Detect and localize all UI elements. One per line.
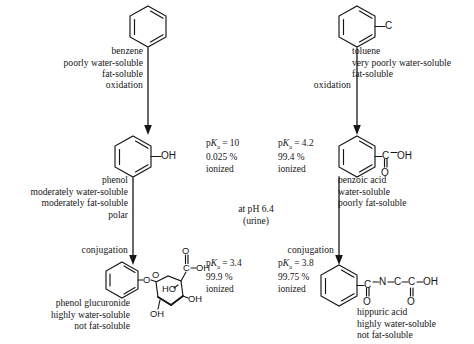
hippuric-c2-label: C: [394, 276, 401, 287]
ph-note-line1: at pH 6.4: [196, 203, 316, 215]
phenol-water-solubility: moderately water-soluble: [0, 186, 128, 198]
benzoic-c-label: C: [382, 150, 389, 161]
arrow-conjugation-left: [129, 178, 137, 265]
phenol-glucuronide-label-block: phenol glucuronide highly water-soluble …: [0, 297, 130, 332]
diagram-canvas: OH O O C O OH HO OH OH C C OH O C O N C …: [0, 0, 474, 344]
glucuronide-carboxyl-c-label: C: [183, 262, 190, 273]
pka-block-hippuric-acid: pKa = 3.8 99.75 % ionized: [278, 258, 314, 296]
benzene-ring-graphic: [130, 6, 166, 47]
oxidation-label-right: oxidation: [258, 79, 351, 91]
benzoic-acid-fat-solubility: poorly fat-soluble: [338, 197, 406, 209]
phenol-polarity: polar: [0, 209, 128, 221]
hippuric-c3-label: C: [408, 276, 415, 287]
glucuronide-o-link-label: O: [143, 274, 150, 285]
glucuronide-oh-right-label: OH: [188, 293, 202, 304]
toluene-methyl-c-label: C: [385, 20, 392, 31]
pka-glucuronide-value: pKa = 3.4: [206, 258, 242, 272]
conjugation-label-left: conjugation: [40, 244, 128, 256]
glucuronide-ho-label: HO: [162, 283, 176, 294]
conjugation-label-right: conjugation: [246, 244, 334, 256]
arrow-oxidation-left: [144, 48, 152, 135]
glucuronide-name: phenol glucuronide: [0, 297, 130, 309]
hippuric-acid-name: hippuric acid: [357, 306, 436, 318]
benzene-label-block: benzene poorly water-soluble fat-soluble: [0, 45, 143, 80]
phenol-label-block: phenol moderately water-soluble moderate…: [0, 174, 128, 220]
benzoic-acid-water-solubility: water-soluble: [338, 186, 406, 198]
pka-phenol-state: ionized: [206, 164, 239, 176]
glucuronide-oh-bottom-label: OH: [150, 308, 164, 319]
pka-block-benzoic-acid: pKa = 4.2 99.4 % ionized: [278, 138, 314, 176]
benzene-name: benzene: [0, 45, 143, 57]
pka-benzoic-state: ionized: [278, 164, 314, 176]
glucuronide-fat-solubility: not fat-soluble: [0, 320, 130, 332]
pka-block-phenol: pKa = 10 0.025 % ionized: [206, 138, 239, 176]
pka-phenol-value: pKa = 10: [206, 138, 239, 152]
pka-phenol-eq: = 10: [220, 138, 239, 148]
hippuric-n-label: N: [379, 276, 386, 287]
pka-hippuric-value: pKa = 3.8: [278, 258, 314, 272]
phenol-name: phenol: [0, 174, 128, 186]
toluene-name: toluene: [352, 45, 451, 57]
toluene-ring-graphic: [339, 6, 385, 47]
benzene-water-solubility: poorly water-soluble: [0, 57, 143, 69]
phenol-fat-solubility: moderately fat-soluble: [0, 197, 128, 209]
toluene-fat-solubility: fat-soluble: [352, 68, 451, 80]
pka-benzoic-percent: 99.4 %: [278, 152, 314, 164]
pka-benzoic-value: pKa = 4.2: [278, 138, 314, 152]
benzoic-oh-label: OH: [397, 150, 412, 161]
hippuric-c1-label: C: [364, 279, 371, 290]
hippuric-acid-fat-solubility: not fat-soluble: [357, 329, 436, 341]
pka-hippuric-state: ionized: [278, 284, 314, 296]
pka-glucuronide-state: ionized: [206, 284, 242, 296]
benzoic-acid-label-block: benzoic acid water-soluble poorly fat-so…: [338, 174, 406, 209]
hippuric-acid-water-solubility: highly water-soluble: [357, 318, 436, 330]
pka-hippuric-percent: 99.75 %: [278, 272, 314, 284]
pka-benzoic-eq: = 4.2: [292, 138, 314, 148]
pka-glucuronide-eq: = 3.4: [220, 258, 242, 268]
ph-note-line2: (urine): [196, 215, 316, 227]
toluene-label-block: toluene very poorly water-soluble fat-so…: [352, 45, 451, 80]
glucuronide-ring-o-label: O: [152, 269, 159, 280]
oxidation-label-left: oxidation: [50, 79, 143, 91]
pka-glucuronide-percent: 99.9 %: [206, 272, 242, 284]
pka-block-phenol-glucuronide: pKa = 3.4 99.9 % ionized: [206, 258, 242, 296]
glucuronide-water-solubility: highly water-soluble: [0, 309, 130, 321]
toluene-water-solubility: very poorly water-soluble: [352, 57, 451, 69]
benzoic-acid-name: benzoic acid: [338, 174, 406, 186]
phenol-ring-graphic: [115, 136, 161, 177]
glucuronide-carboxyl-o-label: O: [182, 245, 189, 256]
phenol-oh-label: OH: [161, 150, 176, 161]
hippuric-acid-label-block: hippuric acid highly water-soluble not f…: [357, 306, 436, 341]
hippuric-oh-label: OH: [423, 276, 438, 287]
pka-phenol-percent: 0.025 %: [206, 152, 239, 164]
ph-note-block: at pH 6.4 (urine): [196, 203, 316, 226]
pka-hippuric-eq: = 3.8: [292, 258, 314, 268]
